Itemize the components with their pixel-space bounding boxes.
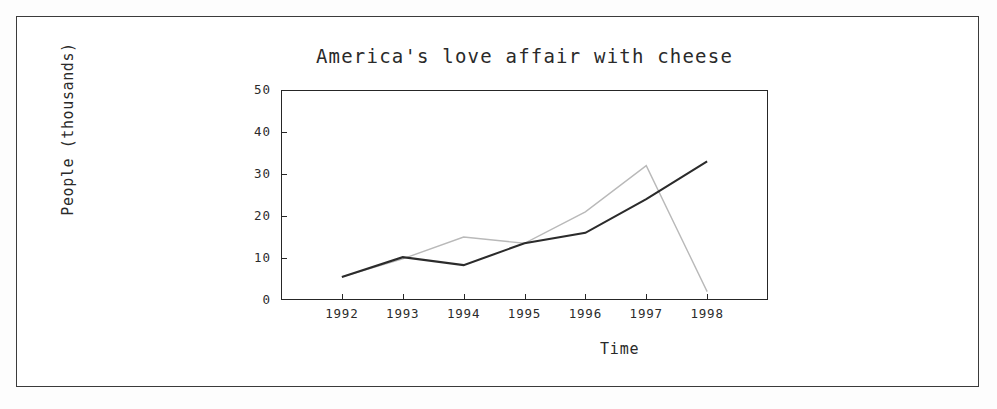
y-tick-mark [281,258,287,259]
plot-lines [281,90,768,300]
line-chart: America's love affair with cheese People… [0,0,997,409]
x-tick-mark [707,294,708,300]
x-tick-label: 1996 [555,306,615,321]
y-axis-label: People (thousands) [59,0,77,259]
x-tick-label: 1995 [495,306,555,321]
x-tick-mark [403,294,404,300]
y-tick-label: 10 [237,250,271,265]
y-tick-mark [281,174,287,175]
x-tick-label: 1998 [677,306,737,321]
y-tick-mark [281,132,287,133]
y-tick-label: 50 [237,82,271,97]
chart-title: America's love affair with cheese [281,45,768,67]
x-tick-mark [464,294,465,300]
x-tick-label: 1997 [616,306,676,321]
x-axis-label: Time [600,340,639,358]
x-tick-label: 1992 [312,306,372,321]
x-tick-mark [525,294,526,300]
x-tick-mark [646,294,647,300]
y-tick-mark [281,216,287,217]
y-tick-label: 0 [237,292,271,307]
series-line-light-gray [342,166,707,292]
y-tick-label: 30 [237,166,271,181]
page-canvas: America's love affair with cheese People… [0,0,997,409]
x-tick-label: 1994 [434,306,494,321]
y-tick-label: 40 [237,124,271,139]
x-tick-mark [585,294,586,300]
x-tick-mark [342,294,343,300]
x-tick-label: 1993 [373,306,433,321]
y-tick-label: 20 [237,208,271,223]
